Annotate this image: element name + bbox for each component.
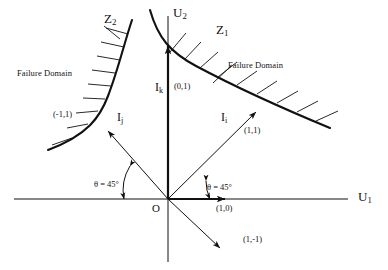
coord-label-1-1: (1,1) [244, 126, 260, 135]
angle-label-right: θ = 45° [207, 183, 232, 192]
diagram-canvas [0, 0, 388, 270]
axis-label-u1: U1 [358, 190, 372, 205]
curve-label-z1: Z1 [216, 23, 228, 38]
axis-label-u2: U2 [173, 6, 187, 21]
vector-label-i-j: Ij [117, 111, 123, 125]
coord-label-minus1-1: (-1,1) [53, 110, 72, 119]
angle-arc-left [123, 166, 130, 199]
failure-domain-left-label: Failure Domain [17, 69, 72, 78]
coord-label-0-1: (0,1) [174, 82, 190, 91]
hatch-z1 [170, 33, 338, 121]
origin-label: O [152, 203, 160, 214]
failure-domain-right-label: Failure Domain [228, 61, 283, 70]
vector-down-right [168, 199, 220, 248]
angle-label-left: θ = 45° [94, 180, 119, 189]
coord-label-1-0: (1,0) [216, 204, 232, 213]
vector-label-i-k: Ik [155, 81, 163, 95]
curve-label-z2: Z2 [104, 12, 116, 27]
limit-state-diagram: U2 U1 Z2 Z1 Failure Domain Failure Domai… [0, 0, 388, 270]
leader-z2 [104, 26, 120, 39]
vector-label-i-i: Ii [221, 111, 227, 125]
hatch-z2 [52, 28, 128, 145]
coord-label-1-minus1: (1,-1) [243, 235, 262, 244]
curve-z2 [48, 20, 132, 150]
